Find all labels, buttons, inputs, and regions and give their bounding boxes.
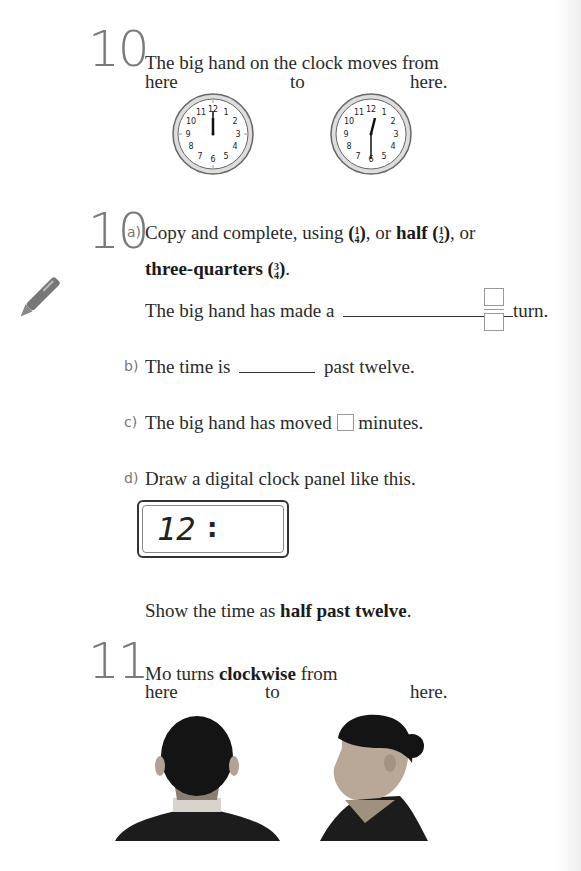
label-here-to: here. [410,71,447,93]
svg-text:1: 1 [381,108,386,117]
analog-clock-icon: 1212 345 678 91011 [329,92,413,176]
svg-text:2: 2 [390,117,395,126]
fraction-three-quarters: 34 [274,262,279,280]
part-d-instruction: Draw a digital clock panel like this. [145,468,416,490]
question-number-11: 11 [88,636,148,686]
svg-text:3: 3 [393,130,398,139]
part-b-sentence: The time is past twelve. [145,356,415,378]
instruction-text: Copy and complete, using [145,222,343,243]
svg-text:11: 11 [354,108,364,117]
part-c-sentence: The big hand has moved minutes. [145,412,423,434]
svg-text:9: 9 [343,130,348,139]
half-word: half [396,222,428,243]
part-b-label: b) [124,358,138,374]
part-a-label: a) [127,224,141,240]
analog-clock-icon: 1212 345 678 91011 [171,92,255,176]
svg-text:5: 5 [381,152,386,161]
svg-text:2: 2 [232,117,237,126]
svg-text:4: 4 [232,142,237,151]
turn-label: turn. [513,300,548,322]
part-a-sentence: The big hand has made a [145,300,517,322]
q11-label-here-to: here. [410,681,447,703]
part-d-label: d) [124,470,138,486]
part-d-show-time: Show the time as half past twelve. [145,600,412,622]
pencil-icon [14,272,64,328]
photo-back-of-head [115,708,280,847]
q11-label-to: to [265,681,280,703]
fraction-quarter: 14 [355,226,360,244]
fraction-half: 12 [439,226,444,244]
q11-label-here-from: here [145,681,178,703]
question-number-10: 10 [88,24,148,74]
label-here-from: here [145,71,178,93]
svg-text:1: 1 [223,108,228,117]
lcd-digits: 12 [157,511,196,547]
svg-text:11: 11 [196,108,206,117]
clock-from: 1212 345 678 91011 [171,92,255,176]
lcd-colon: : [207,512,217,544]
svg-text:10: 10 [344,117,354,126]
denominator-box[interactable] [484,313,504,331]
svg-text:7: 7 [355,152,360,161]
svg-text:3: 3 [235,130,240,139]
clock-to: 1212 345 678 91011 [329,92,413,176]
svg-text:8: 8 [346,142,351,151]
answer-blank-time[interactable] [239,371,315,373]
part-a-instruction: Copy and complete, using (14), or half (… [145,222,475,244]
svg-text:10: 10 [186,117,196,126]
numerator-box[interactable] [484,288,504,306]
digital-clock-panel: 12 : [137,500,289,558]
svg-text:9: 9 [185,130,190,139]
photo-side-profile [320,708,430,847]
svg-text:7: 7 [197,152,202,161]
svg-text:5: 5 [223,152,228,161]
minutes-answer-box[interactable] [337,414,354,431]
svg-text:8: 8 [188,142,193,151]
part-a-three-quarters: three-quarters (34). [145,258,290,280]
svg-text:4: 4 [390,142,395,151]
svg-text:12: 12 [366,105,376,114]
part-c-label: c) [124,414,137,430]
fraction-answer-boxes [484,288,504,331]
label-to: to [290,71,305,93]
svg-text:6: 6 [210,155,215,164]
